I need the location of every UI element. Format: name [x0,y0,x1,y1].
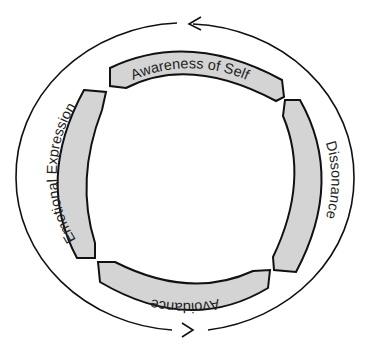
stage-dissonance: Dissonance [273,100,345,272]
bottom-arrow-right-icon [182,323,193,337]
stage-label-dissonance: Dissonance [323,139,345,221]
stage-emotional-expression: Emotional Expression [44,90,106,258]
stage-awareness-of-self: Awareness of Self [110,52,284,101]
stage-avoidance: Avoidance [98,262,270,316]
cycle-diagram: Awareness of Self Dissonance Avoidance E… [0,0,368,354]
